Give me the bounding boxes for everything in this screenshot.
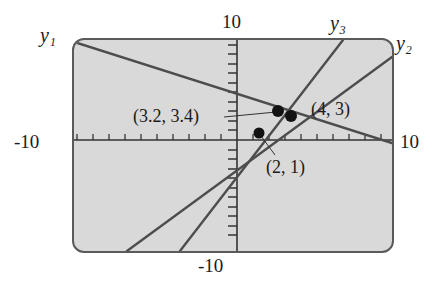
graph-figure: y₁ y₂ y₃ 10 -10 10 -10 (3.2, 3.4) (4, 3)… [0,0,439,287]
axis-label-right: 10 [400,131,419,153]
curve-y2 [127,57,392,251]
point-2-1 [254,128,265,139]
curve-label-y2: y₂ [396,32,412,55]
annotation-intersection-left: (3.2, 3.4) [133,106,199,127]
axis-label-bottom: -10 [198,255,223,277]
axis-label-left: -10 [14,131,39,153]
x-axis-ticks [77,134,381,140]
point-4-3 [285,110,297,122]
curve-label-y1: y₁ [40,24,56,47]
curve-label-y3: y₃ [330,12,346,35]
curve-y3 [180,40,343,251]
annotation-intersection-right: (4, 3) [311,99,350,120]
plot-canvas [0,0,439,287]
point-3-2-3-4 [272,105,284,117]
annotation-intersection-lower: (2, 1) [266,157,305,178]
leader-line-p1 [224,112,276,117]
axis-label-top: 10 [222,11,241,33]
